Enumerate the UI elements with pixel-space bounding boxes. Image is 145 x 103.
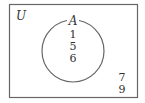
venn-diagram: U A 1 5 6 7 9 xyxy=(0,0,145,103)
set-a-label: A xyxy=(68,14,78,28)
universe-label: U xyxy=(16,9,27,23)
set-a-element: 6 xyxy=(70,52,77,65)
outside-element: 9 xyxy=(119,83,126,96)
